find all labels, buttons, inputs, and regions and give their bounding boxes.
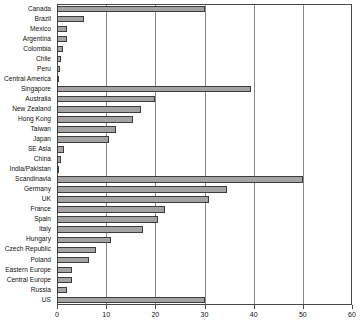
bar bbox=[57, 6, 205, 12]
bar-row bbox=[57, 235, 352, 245]
bar-row bbox=[57, 104, 352, 114]
y-tick-label: Russia bbox=[31, 287, 51, 294]
y-tick-label-row: Hong Kong bbox=[0, 114, 54, 124]
bar-row bbox=[57, 265, 352, 275]
bar bbox=[57, 237, 111, 243]
bar-row bbox=[57, 275, 352, 285]
y-tick-label-row: Colombia bbox=[0, 44, 54, 54]
y-tick-label: Italy bbox=[39, 226, 51, 233]
y-tick-label: Spain bbox=[34, 216, 51, 223]
y-tick-label-row: SE Asia bbox=[0, 144, 54, 154]
y-tick-label: SE Asia bbox=[28, 146, 51, 153]
bar-row bbox=[57, 285, 352, 295]
x-tick-60 bbox=[352, 305, 353, 309]
y-tick-label: Hungary bbox=[26, 236, 51, 243]
bar bbox=[57, 116, 133, 122]
bar-row bbox=[57, 245, 352, 255]
bar bbox=[57, 186, 227, 192]
y-tick-label-row: Australia bbox=[0, 94, 54, 104]
bar bbox=[57, 96, 155, 102]
bar bbox=[57, 46, 63, 52]
x-tick-0 bbox=[57, 305, 58, 309]
y-tick-label: Taiwan bbox=[30, 126, 51, 133]
bar bbox=[57, 257, 89, 263]
bar-row bbox=[57, 144, 352, 154]
y-tick-label-row: China bbox=[0, 154, 54, 164]
bar bbox=[57, 136, 109, 142]
bar-row bbox=[57, 114, 352, 124]
y-tick-label: Singapore bbox=[21, 86, 51, 93]
y-tick-label-row: Singapore bbox=[0, 84, 54, 94]
y-tick-label: India/Pakistan bbox=[10, 166, 51, 173]
bar-row bbox=[57, 175, 352, 185]
bar-row bbox=[57, 165, 352, 175]
y-tick-label-row: Germany bbox=[0, 185, 54, 195]
bar bbox=[57, 16, 84, 22]
y-tick-label-row: Eastern Europe bbox=[0, 265, 54, 275]
bar-row bbox=[57, 74, 352, 84]
y-axis-category-labels: CanadaBrazilMexicoArgentinaColombiaChile… bbox=[0, 4, 54, 305]
y-tick-label-row: Taiwan bbox=[0, 124, 54, 134]
y-tick-label: Chile bbox=[36, 56, 51, 63]
bar bbox=[57, 126, 116, 132]
bar-row bbox=[57, 14, 352, 24]
x-tick-label: 50 bbox=[299, 311, 307, 318]
y-tick-label: Hong Kong bbox=[18, 116, 51, 123]
bar bbox=[57, 36, 67, 42]
y-tick-label: Scandinavia bbox=[15, 176, 51, 183]
x-tick-label: 0 bbox=[55, 311, 59, 318]
bar bbox=[57, 76, 59, 82]
y-tick-label-row: US bbox=[0, 295, 54, 305]
bar-row bbox=[57, 94, 352, 104]
bar bbox=[57, 267, 72, 273]
bar bbox=[57, 86, 251, 92]
y-tick-label-row: Japan bbox=[0, 134, 54, 144]
y-tick-label-row: Hungary bbox=[0, 235, 54, 245]
y-tick-label-row: India/Pakistan bbox=[0, 165, 54, 175]
bar-row bbox=[57, 154, 352, 164]
y-tick-label: Canada bbox=[28, 6, 51, 13]
y-tick-label: Peru bbox=[37, 66, 51, 73]
x-tick-label: 40 bbox=[250, 311, 258, 318]
y-tick-label-row: Peru bbox=[0, 64, 54, 74]
bar-row bbox=[57, 64, 352, 74]
y-tick-label: Colombia bbox=[23, 46, 51, 53]
bar-row bbox=[57, 34, 352, 44]
y-tick-label-row: Poland bbox=[0, 255, 54, 265]
bar-row bbox=[57, 215, 352, 225]
x-tick-40 bbox=[254, 305, 255, 309]
bar bbox=[57, 226, 143, 232]
bar bbox=[57, 106, 141, 112]
bar bbox=[57, 196, 209, 202]
bar bbox=[57, 206, 165, 212]
x-tick-10 bbox=[106, 305, 107, 309]
y-tick-label-row: Brazil bbox=[0, 14, 54, 24]
y-tick-label: Eastern Europe bbox=[5, 267, 51, 274]
bar-row bbox=[57, 124, 352, 134]
bar-row bbox=[57, 134, 352, 144]
bar bbox=[57, 297, 205, 303]
bar bbox=[57, 166, 59, 172]
y-tick-label: UK bbox=[42, 196, 51, 203]
y-tick-label-row: Scandinavia bbox=[0, 175, 54, 185]
bar bbox=[57, 26, 67, 32]
y-tick-label-row: Argentina bbox=[0, 34, 54, 44]
bar-row bbox=[57, 205, 352, 215]
bar-row bbox=[57, 225, 352, 235]
y-tick-label: US bbox=[42, 297, 51, 304]
y-tick-label-row: Canada bbox=[0, 4, 54, 14]
x-axis: 0102030405060 bbox=[57, 305, 352, 331]
x-tick-label: 10 bbox=[102, 311, 110, 318]
y-tick-label: Argentina bbox=[23, 36, 51, 43]
y-tick-label: France bbox=[30, 206, 51, 213]
y-tick-label-row: Spain bbox=[0, 215, 54, 225]
bar-row bbox=[57, 255, 352, 265]
y-tick-label-row: UK bbox=[0, 195, 54, 205]
bar-row bbox=[57, 185, 352, 195]
y-tick-label-row: Central America bbox=[0, 74, 54, 84]
x-tick-50 bbox=[303, 305, 304, 309]
bar bbox=[57, 176, 303, 182]
bar-row bbox=[57, 195, 352, 205]
bar-row bbox=[57, 295, 352, 305]
y-tick-label: Australia bbox=[25, 96, 51, 103]
